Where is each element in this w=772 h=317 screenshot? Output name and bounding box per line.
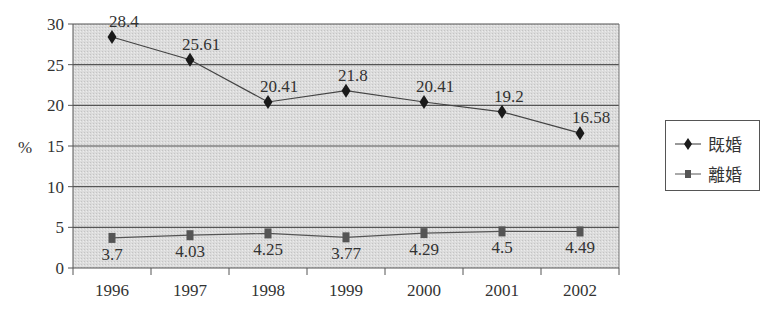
legend-item-divorced: 離婚 xyxy=(674,161,742,186)
data-label: 20.41 xyxy=(416,77,454,96)
x-tick-label: 1997 xyxy=(173,281,208,300)
y-tick-label: 5 xyxy=(56,218,65,237)
square-marker xyxy=(265,228,272,238)
square-marker xyxy=(109,233,116,243)
data-label: 16.58 xyxy=(572,108,610,127)
square-marker xyxy=(499,226,506,236)
y-tick-label: 20 xyxy=(47,96,64,115)
y-tick-label: 0 xyxy=(56,259,65,278)
data-label: 3.77 xyxy=(331,244,361,263)
data-label: 28.4 xyxy=(109,12,139,31)
diamond-marker-icon xyxy=(674,137,702,151)
data-label: 4.49 xyxy=(565,238,595,257)
x-tick-label: 2001 xyxy=(485,281,519,300)
x-tick-label: 1996 xyxy=(95,281,129,300)
square-marker xyxy=(187,230,194,240)
data-label: 4.5 xyxy=(491,238,512,257)
data-label: 20.41 xyxy=(260,77,298,96)
line-chart: 051015202530 199619971998199920002001200… xyxy=(0,0,772,317)
x-axis-ticks: 1996199719981999200020012002 xyxy=(73,268,619,300)
y-tick-label: 30 xyxy=(47,15,64,34)
square-marker xyxy=(343,232,350,242)
data-label: 21.8 xyxy=(338,66,368,85)
legend-label-married: 既婚 xyxy=(708,131,742,156)
y-tick-label: 15 xyxy=(47,137,64,156)
x-tick-label: 1998 xyxy=(251,281,285,300)
square-marker xyxy=(577,226,584,236)
legend-label-divorced: 離婚 xyxy=(708,161,742,186)
legend-item-married: 既婚 xyxy=(674,131,742,156)
y-axis-ticks: 051015202530 xyxy=(47,15,73,278)
data-label: 4.29 xyxy=(409,240,439,259)
square-marker-icon xyxy=(674,167,702,181)
y-tick-label: 10 xyxy=(47,178,64,197)
data-label: 4.25 xyxy=(253,240,283,259)
x-tick-label: 2002 xyxy=(563,281,597,300)
y-axis-label: % xyxy=(18,138,32,157)
legend: 既婚 離婚 xyxy=(665,120,760,191)
square-marker xyxy=(421,228,428,238)
y-tick-label: 25 xyxy=(47,56,64,75)
data-label: 4.03 xyxy=(175,242,205,261)
x-tick-label: 2000 xyxy=(407,281,441,300)
x-tick-label: 1999 xyxy=(329,281,363,300)
data-label: 3.7 xyxy=(101,245,123,264)
data-label: 19.2 xyxy=(494,87,524,106)
data-label: 25.61 xyxy=(182,35,220,54)
